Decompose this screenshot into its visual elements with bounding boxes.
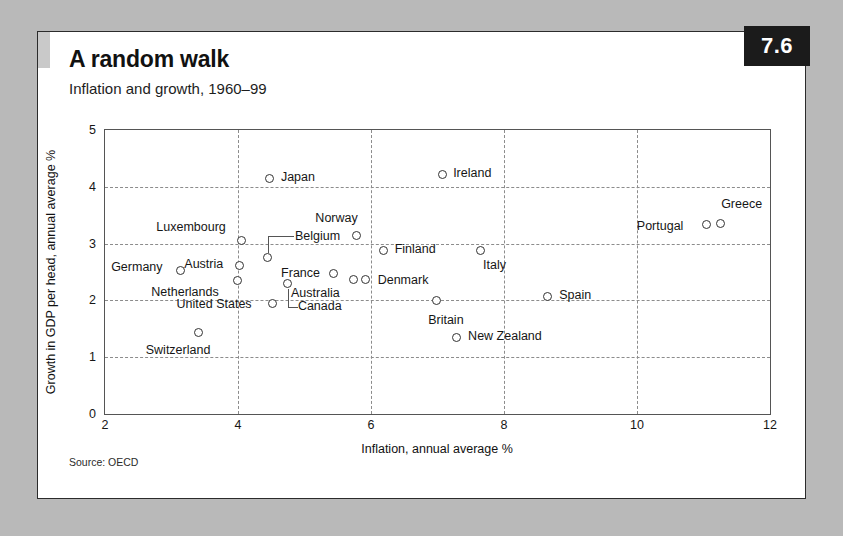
y-tick-label: 1 [89,350,96,364]
x-tick-label: 12 [763,418,777,432]
y-tick-label: 3 [89,237,96,251]
data-point-marker [329,269,338,278]
gridline-vertical [637,130,638,414]
x-tick-label: 8 [501,418,508,432]
data-point-label: New Zealand [468,329,542,343]
y-tick-label: 5 [89,123,96,137]
data-point-label: Greece [721,197,762,211]
x-tick-label: 6 [368,418,375,432]
data-point-marker [265,174,274,183]
figure-panel: 7.6 A random walk Inflation and growth, … [37,31,806,499]
data-point-marker [476,246,485,255]
source-note: Source: OECD [69,456,138,468]
data-point-marker [452,333,461,342]
data-point-label: France [281,266,320,280]
x-tick-label: 2 [102,418,109,432]
data-point-label: Finland [395,242,436,256]
y-tick-label: 4 [89,180,96,194]
label-leader-line [288,289,289,307]
data-point-label: Ireland [453,166,491,180]
label-leader-line [268,236,294,237]
data-point-marker [176,266,185,275]
data-point-label: Switzerland [146,343,211,357]
data-point-label: Britain [428,313,463,327]
label-leader-line [288,307,298,308]
data-point-marker [263,253,272,262]
data-point-marker [716,219,725,228]
x-axis-label: Inflation, annual average % [361,442,513,456]
data-point-marker [438,170,447,179]
gridline-horizontal [105,357,770,358]
data-point-marker [349,275,358,284]
chart-subtitle: Inflation and growth, 1960–99 [69,80,267,97]
data-point-marker [194,328,203,337]
data-point-marker [361,275,370,284]
gridline-vertical [238,130,239,414]
y-tick-label: 2 [89,293,96,307]
data-point-label: United States [177,297,252,311]
chart-title: A random walk [69,46,229,73]
data-point-label: Luxembourg [156,220,226,234]
data-point-label: Portugal [637,219,684,233]
data-point-marker [352,231,361,240]
data-point-label: Spain [559,288,591,302]
gridline-vertical [371,130,372,414]
data-point-marker [233,276,242,285]
figure-number-badge: 7.6 [744,26,810,66]
y-tick-label: 0 [89,407,96,421]
plot-area: JapanIrelandGreecePortugalNorwayLuxembou… [104,129,771,415]
data-point-marker [379,246,388,255]
data-point-marker [235,261,244,270]
data-point-marker [268,299,277,308]
x-tick-label: 10 [630,418,644,432]
data-point-label: Italy [483,258,506,272]
data-point-label: Japan [281,170,315,184]
data-point-marker [543,292,552,301]
data-point-label: Australia [291,286,340,300]
data-point-label: Denmark [378,273,429,287]
data-point-marker [702,220,711,229]
data-point-label: Canada [298,299,342,313]
data-point-label: Belgium [295,229,340,243]
y-axis-label: Growth in GDP per head, annual average % [44,150,58,394]
label-leader-line [268,236,269,253]
gridline-horizontal [105,187,770,188]
data-point-label: Norway [315,211,357,225]
data-point-label: Germany [111,260,162,274]
data-point-marker [237,236,246,245]
data-point-label: Austria [184,257,223,271]
accent-bar [38,32,50,68]
gridline-horizontal [105,244,770,245]
x-tick-label: 4 [235,418,242,432]
data-point-marker [432,296,441,305]
